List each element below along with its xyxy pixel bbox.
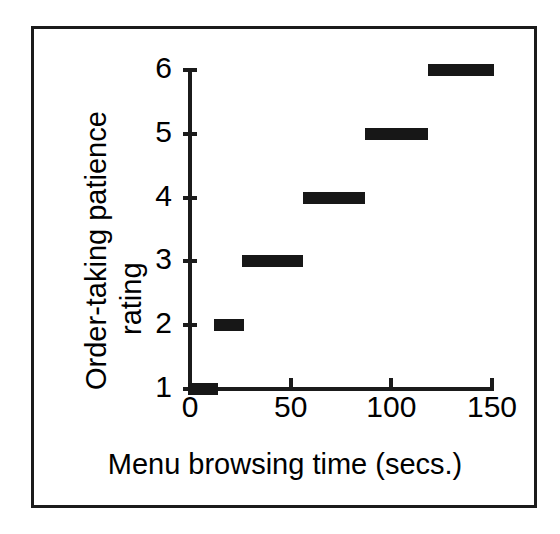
y-axis-title-line-1: Order-taking patience xyxy=(81,111,111,390)
chart-figure: 123456 050100150 Menu browsing time (sec… xyxy=(0,0,560,534)
x-axis-title: Menu browsing time (secs.) xyxy=(60,447,510,481)
y-axis-title-line-2: rating xyxy=(116,262,146,335)
y-axis-title: Order-taking patience rating xyxy=(52,90,126,390)
